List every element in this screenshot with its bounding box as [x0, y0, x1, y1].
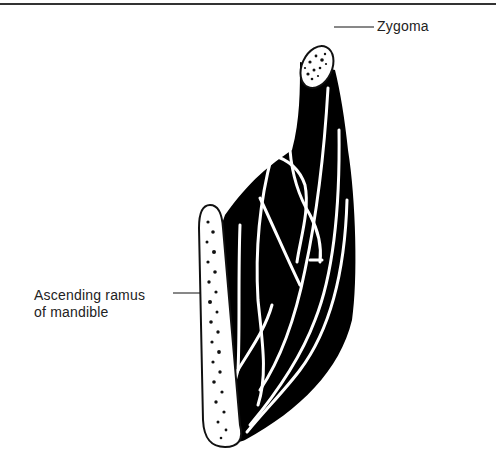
ascending-ramus-label: Ascending ramus of mandible: [34, 287, 145, 321]
zygoma-label: Zygoma: [377, 18, 429, 35]
ascending-ramus-label-line2: of mandible: [34, 304, 145, 321]
ascending-ramus-label-line1: Ascending ramus: [34, 287, 145, 304]
masseter-muscle-diagram: [0, 0, 496, 470]
